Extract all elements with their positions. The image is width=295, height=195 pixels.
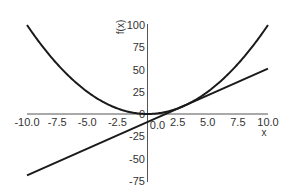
y-tick-label: -50 bbox=[129, 153, 145, 165]
y-tick-label: 75 bbox=[133, 41, 145, 53]
y-tick-label: -25 bbox=[129, 130, 145, 142]
function-plot: -10.0-7.5-5.0-2.50.02.55.07.510.0 100755… bbox=[0, 0, 295, 195]
x-tick-label: 2.5 bbox=[170, 116, 185, 128]
x-tick-label: -10.0 bbox=[14, 116, 39, 128]
y-tick-label: 50 bbox=[133, 64, 145, 76]
x-tick-label: -7.5 bbox=[48, 116, 67, 128]
x-tick-label: -2.5 bbox=[108, 116, 127, 128]
y-tick-label: 100 bbox=[127, 19, 145, 31]
y-tick-labels: 1007550250-25-50-75 bbox=[127, 19, 145, 187]
y-axis-label: f(x) bbox=[115, 20, 126, 34]
y-tick-label: 25 bbox=[133, 86, 145, 98]
x-axis-label: x bbox=[262, 127, 267, 138]
x-tick-label: 7.5 bbox=[230, 116, 245, 128]
y-tick-label: -75 bbox=[129, 175, 145, 187]
x-tick-label: 5.0 bbox=[200, 116, 215, 128]
x-tick-label: 10.0 bbox=[257, 116, 278, 128]
x-tick-label: -5.0 bbox=[78, 116, 97, 128]
